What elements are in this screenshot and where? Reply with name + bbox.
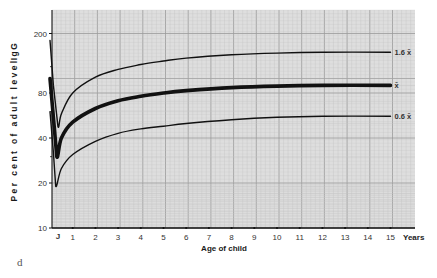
x-tick-label: 11: [296, 233, 305, 242]
x-tick: [253, 227, 255, 229]
y-axis-label: Per cent of adult level: [9, 58, 19, 201]
y-tick-label: 20: [38, 179, 47, 188]
y-axis-label-igg: IgG: [9, 42, 19, 61]
x-tick: [276, 227, 278, 229]
x-tick-label: 7: [207, 233, 212, 242]
x-tick: [140, 227, 142, 229]
chart-svg: 10204080200123456789101112131415JYears 1…: [0, 0, 437, 278]
x-tick-label-birth: J: [56, 232, 60, 241]
panel-label: d: [17, 256, 23, 268]
x-tick-label: 6: [184, 233, 189, 242]
y-tick-label: 40: [38, 134, 47, 143]
x-tick: [231, 227, 233, 229]
x-tick: [162, 227, 164, 229]
x-tick-label: 9: [252, 233, 257, 242]
x-tick: [72, 227, 74, 229]
x-tick-label: 15: [386, 233, 395, 242]
x-tick: [321, 227, 323, 229]
x-tick-label: 10: [273, 233, 282, 242]
x-tick-label: 2: [93, 233, 98, 242]
y-tick-label: 10: [38, 224, 47, 233]
series-label-2: 0.6 x̄: [395, 112, 413, 121]
x-tick-label: 1: [70, 233, 75, 242]
x-tick: [389, 227, 391, 229]
x-tick-label: 14: [363, 233, 372, 242]
x-tick: [344, 227, 346, 229]
y-tick-label: 80: [38, 89, 47, 98]
x-tick-label: 8: [229, 233, 234, 242]
x-tick-label: 12: [318, 233, 327, 242]
x-unit-label: Years: [403, 233, 425, 242]
y-tick-label: 200: [34, 30, 48, 39]
x-tick-label: 13: [341, 233, 350, 242]
x-tick: [117, 227, 119, 229]
x-tick: [367, 227, 369, 229]
x-tick-label: 3: [116, 233, 121, 242]
x-tick-label: 5: [161, 233, 166, 242]
x-axis-label: Age of child: [201, 244, 247, 253]
series-label-0: 1.6 x̄: [395, 48, 413, 57]
x-tick: [94, 227, 96, 229]
x-tick: [299, 227, 301, 229]
x-tick: [208, 227, 210, 229]
x-tick: [185, 227, 187, 229]
x-tick-label: 4: [139, 233, 144, 242]
